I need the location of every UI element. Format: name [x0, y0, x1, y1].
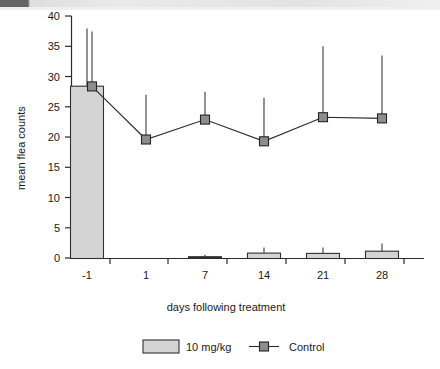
bar-minus1	[71, 86, 104, 258]
x-axis-title: days following treatment	[167, 301, 286, 313]
y-tick-label-10: 10	[48, 192, 60, 204]
x-tick-label-14: 14	[258, 269, 270, 281]
y-axis-title: mean flea counts	[15, 106, 27, 190]
legend-swatch-10mgkg	[143, 340, 179, 353]
y-tick-label-40: 40	[48, 10, 60, 22]
bar-error-bars	[87, 29, 382, 257]
legend-marker-control	[260, 342, 269, 351]
legend-label-control: Control	[289, 341, 324, 353]
scan-artifact-bar	[0, 0, 440, 7]
bar-14	[248, 253, 281, 258]
chart-figure: 0 5 10 15 20 25 30 35 40 mean flea count…	[0, 0, 440, 369]
legend-label-10mgkg: 10 mg/kg	[186, 341, 231, 353]
y-tick-label-20: 20	[48, 131, 60, 143]
x-tick-label-minus1: -1	[82, 269, 92, 281]
y-tick-label-25: 25	[48, 101, 60, 113]
control-marker-14	[260, 137, 269, 146]
control-polyline	[92, 86, 382, 141]
bar-28	[366, 251, 399, 258]
bar-7	[189, 257, 222, 259]
x-axis: -1 1 7 14 21 28 days following treatment	[72, 259, 425, 314]
x-tick-label-1: 1	[143, 269, 149, 281]
control-marker-28	[378, 114, 387, 123]
x-tick-label-28: 28	[376, 269, 388, 281]
y-tick-label-5: 5	[54, 222, 60, 234]
control-marker-1	[142, 135, 151, 144]
bar-series-10mgkg	[71, 86, 399, 258]
line-series-control	[88, 32, 387, 146]
x-tick-label-21: 21	[317, 269, 329, 281]
control-marker-21	[319, 113, 328, 122]
control-marker-minus1	[88, 82, 97, 91]
scan-artifact-bar-secondary	[0, 7, 440, 10]
y-tick-label-15: 15	[48, 161, 60, 173]
y-tick-label-35: 35	[48, 40, 60, 52]
bar-21	[307, 253, 340, 258]
control-marker-7	[201, 115, 210, 124]
y-tick-label-0: 0	[54, 252, 60, 264]
y-tick-label-30: 30	[48, 71, 60, 83]
flea-count-chart-svg: 0 5 10 15 20 25 30 35 40 mean flea count…	[0, 0, 440, 369]
x-tick-label-7: 7	[202, 269, 208, 281]
y-axis: 0 5 10 15 20 25 30 35 40 mean flea count…	[15, 10, 72, 264]
chart-legend: 10 mg/kg Control	[143, 340, 324, 353]
